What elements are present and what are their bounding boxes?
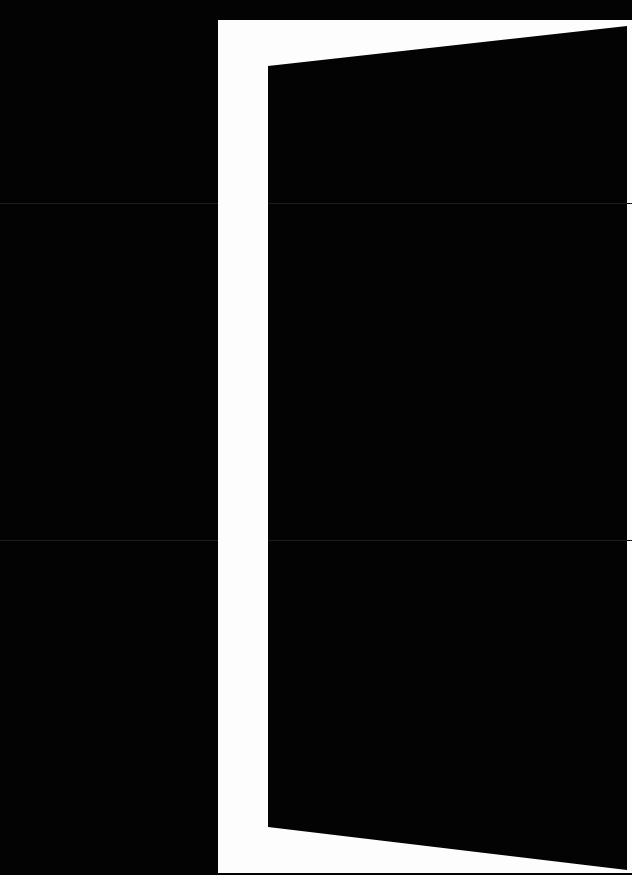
fold-line-top <box>0 203 632 204</box>
door-edge <box>627 48 632 828</box>
door-panel <box>268 26 627 870</box>
fold-line-bottom <box>0 540 632 541</box>
open-door-icon <box>0 0 632 875</box>
